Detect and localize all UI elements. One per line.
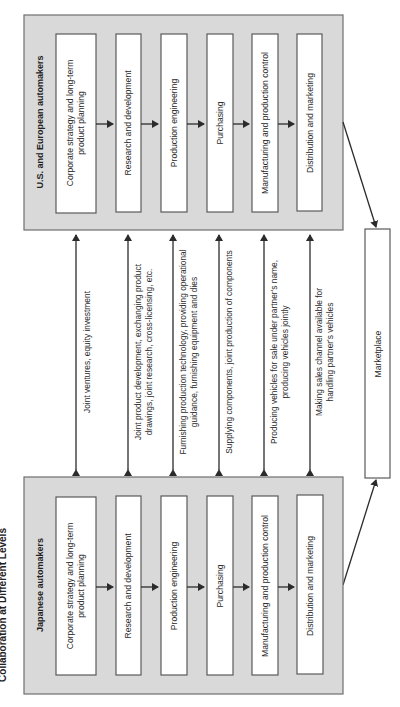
us-to-marketplace-arrow-icon [343,122,376,227]
link-production-technology-line1: Furnishing production technology, provid… [178,249,188,454]
japanese-panel: Japanese automakers Corporate strategy a… [24,477,343,694]
us-step-strategy-line1: Corporate strategy and long-term [65,60,75,187]
us-step-distribution: Distribution and marketing [297,34,322,211]
us-step-strategy: Corporate strategy and long-term product… [56,34,96,213]
japan-step-production-engineering-label: Production engineering [169,542,179,631]
japan-step-purchasing: Purchasing [207,496,233,675]
japan-step-distribution-label: Distribution and marketing [305,536,315,636]
us-panel-label: U.S. and European automakers [35,55,45,188]
us-step-production-engineering-label: Production engineering [169,79,179,168]
link-sales-channel-line1: Making sales channel available for [314,288,324,416]
us-step-manufacturing-label: Manufacturing and production control [260,52,270,194]
link-producing-vehicles-line1: Producing vehicles for sale under partne… [269,260,279,444]
diagram-title: Collaboration at Different Levels [0,528,8,682]
collaboration-links: Joint ventures, equity investment Joint … [76,235,335,470]
japan-step-manufacturing: Manufacturing and production control [252,496,278,675]
link-producing-vehicles-line2: producing vehicles jointly [280,305,290,399]
japan-step-strategy-line1: Corporate strategy and long-term [65,523,75,650]
us-european-panel: U.S. and European automakers Corporate s… [24,15,343,230]
marketplace-box: Marketplace [365,229,390,478]
japan-step-distribution: Distribution and marketing [297,495,323,674]
us-step-production-engineering: Production engineering [161,34,187,212]
us-step-rnd: Research and development [116,34,141,212]
japan-step-rnd-label: Research and development [123,533,133,639]
japan-step-strategy-line2: product planning [76,554,86,618]
japan-step-manufacturing-label: Manufacturing and production control [260,515,270,657]
collaboration-diagram: Collaboration at Different Levels U.S. a… [0,0,400,707]
link-joint-development-line1: Joint product development, exchanging pr… [133,263,143,440]
link-joint-ventures: Joint ventures, equity investment [82,290,92,413]
marketplace-label: Marketplace [373,330,383,377]
japan-panel-label: Japanese automakers [35,538,45,632]
us-step-strategy-line2: product planning [76,91,86,155]
us-step-rnd-label: Research and development [123,70,133,176]
link-sales-channel-line2: handling partner's vehicles [325,303,335,402]
us-step-purchasing: Purchasing [207,34,233,212]
us-step-distribution-label: Distribution and marketing [305,73,315,173]
japan-step-purchasing-label: Purchasing [215,564,225,607]
japan-to-marketplace-arrow-icon [343,480,376,585]
link-production-technology-line2: guidance, furnishing equipment and dies [189,277,199,427]
link-joint-development-line2: drawings, joint research, cross-licensin… [144,269,154,436]
us-step-purchasing-label: Purchasing [215,101,225,144]
japan-step-strategy: Corporate strategy and long-term product… [56,497,96,675]
japan-step-rnd: Research and development [116,496,141,675]
japan-step-production-engineering: Production engineering [161,496,187,675]
link-supplying-components: Supplying components, joint production o… [224,250,234,453]
us-step-manufacturing: Manufacturing and production control [252,34,278,212]
